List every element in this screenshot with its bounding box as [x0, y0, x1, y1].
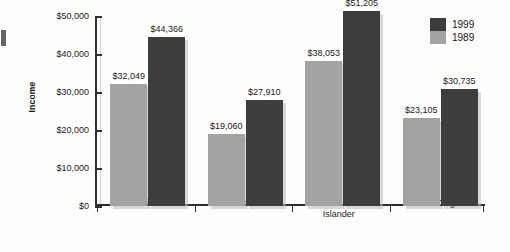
y-tick-label: $50,000: [33, 12, 89, 21]
chart-legend: 19991989: [430, 18, 474, 44]
bar-1989-asian-or-pacific-islander: $38,053: [305, 61, 342, 206]
page-edge-artifact: [1, 30, 6, 46]
bar-value-label: $19,060: [210, 121, 243, 131]
y-axis-tick-labels: $0$10,000$20,000$30,000$40,000$50,000: [33, 0, 89, 252]
bar-group: $38,053$51,205: [290, 16, 388, 206]
legend-swatch: [430, 18, 446, 31]
x-category-label-line: Islander: [290, 209, 388, 220]
bar-1999-latino-origin: $30,735: [441, 89, 478, 206]
bar-1999-african-american: $27,910: [246, 100, 283, 206]
bar-value-label: $23,105: [405, 105, 438, 115]
plot-area: $32,049$44,366$19,060$27,910$38,053$51,2…: [95, 16, 485, 206]
bar-body: [110, 84, 147, 206]
bar-body: [441, 89, 478, 206]
bar-1999-asian-or-pacific-islander: $51,205: [343, 11, 380, 206]
bar-body: [246, 100, 283, 206]
y-tick-label: $40,000: [33, 50, 89, 59]
bar-value-label: $38,053: [307, 48, 340, 58]
bar-body: [148, 37, 185, 206]
y-tick-label: $20,000: [33, 126, 89, 135]
bar-value-label: $44,366: [150, 24, 183, 34]
bar-body: [403, 118, 440, 206]
y-tick-label: $10,000: [33, 164, 89, 173]
bar-body: [305, 61, 342, 206]
bar-body: [343, 11, 380, 206]
bar-body: [208, 134, 245, 206]
bar-chart-figure: Income $0$10,000$20,000$30,000$40,000$50…: [0, 0, 510, 252]
bar-group: $32,049$44,366: [95, 16, 193, 206]
bar-value-label: $30,735: [443, 76, 476, 86]
legend-label: 1989: [452, 32, 474, 43]
bar-1989-latino-origin: $23,105: [403, 118, 440, 206]
y-tick-label: $0: [33, 202, 89, 211]
bar-1989-white: $32,049: [110, 84, 147, 206]
legend-swatch: [430, 31, 446, 44]
legend-item-1999: 1999: [430, 18, 474, 31]
legend-item-1989: 1989: [430, 31, 474, 44]
bar-group: $19,060$27,910: [193, 16, 291, 206]
bar-value-label: $51,205: [345, 0, 378, 8]
legend-label: 1999: [452, 19, 474, 30]
bar-1989-african-american: $19,060: [208, 134, 245, 206]
bar-group: $23,105$30,735: [388, 16, 486, 206]
bar-1999-white: $44,366: [148, 37, 185, 206]
y-tick-label: $30,000: [33, 88, 89, 97]
bar-value-label: $27,910: [248, 87, 281, 97]
bar-value-label: $32,049: [112, 71, 145, 81]
